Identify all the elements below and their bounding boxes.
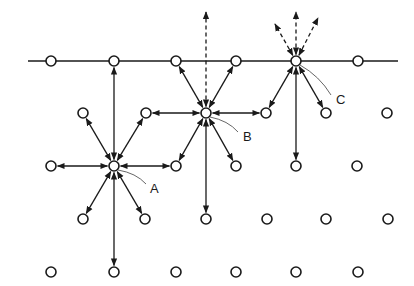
hop-arrow	[117, 119, 142, 161]
lattice-site	[109, 267, 119, 277]
lattice-site	[46, 161, 56, 171]
label-leader-line	[300, 65, 331, 95]
lattice-site	[291, 161, 301, 171]
site-label-b: B	[243, 129, 252, 144]
hop-arrow	[86, 119, 110, 161]
hop-arrow	[179, 67, 203, 108]
lattice-site	[201, 214, 211, 224]
lattice-site	[171, 56, 181, 66]
lattice-site	[46, 267, 56, 277]
lattice-site	[78, 214, 88, 224]
lattice-site	[321, 108, 331, 118]
lattice-site	[291, 56, 301, 66]
lattice-site	[141, 108, 151, 118]
lattice-site	[171, 267, 181, 277]
hop-arrow	[117, 172, 141, 214]
lattice-site	[231, 267, 241, 277]
lattice-site	[78, 108, 88, 118]
lattice-site	[352, 161, 362, 171]
lattice-site	[231, 161, 241, 171]
lattice-site	[46, 56, 56, 66]
desorption-arrow	[299, 18, 318, 55]
lattice-site	[171, 161, 181, 171]
lattice-site	[383, 214, 393, 224]
lattice-site	[140, 214, 150, 224]
lattice-diagram: ABC	[0, 0, 414, 286]
site-label-c: C	[336, 92, 345, 107]
lattice-site	[109, 161, 119, 171]
hop-arrow	[179, 119, 203, 161]
hop-arrow	[86, 172, 110, 214]
lattice-site	[262, 214, 272, 224]
site-label-a: A	[150, 181, 159, 196]
hop-arrows	[58, 12, 323, 266]
lattice-site	[201, 108, 211, 118]
desorption-arrow	[275, 24, 293, 55]
lattice-site	[382, 108, 392, 118]
hop-arrow	[209, 67, 233, 108]
label-leader-line	[118, 170, 146, 184]
hop-arrow	[269, 67, 293, 108]
lattice-site	[109, 56, 119, 66]
lattice-site	[353, 56, 363, 66]
lattice-site	[291, 267, 301, 277]
site-labels: ABC	[118, 65, 345, 196]
label-leader-line	[210, 117, 238, 132]
lattice-site	[261, 108, 271, 118]
lattice-site	[353, 267, 363, 277]
lattice-site	[231, 56, 241, 66]
lattice-site	[321, 214, 331, 224]
